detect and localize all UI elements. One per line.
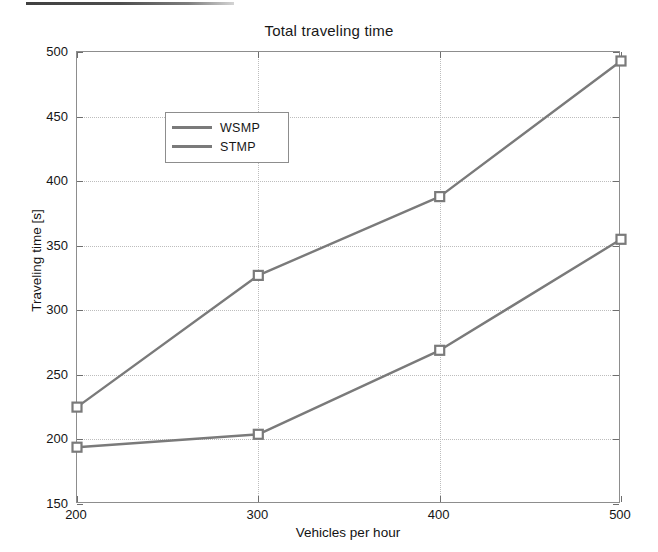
x-axis-tick: [621, 496, 622, 502]
legend-item[interactable]: WSMP: [172, 118, 282, 137]
y-tick-label: 300: [20, 302, 68, 317]
y-tick-label: 400: [20, 173, 68, 188]
chart-legend: WSMP STMP: [165, 112, 289, 163]
data-point-marker: [617, 235, 626, 244]
series-stmp: [73, 235, 626, 452]
legend-label-stmp: STMP: [220, 140, 256, 154]
x-tick-label: 200: [46, 507, 106, 522]
data-point-marker: [435, 346, 444, 355]
x-axis-label: Vehicles per hour: [76, 525, 620, 540]
chart-title: Total traveling time: [0, 22, 658, 39]
x-tick-labels: 200300400500: [76, 503, 620, 525]
x-tick-label: 300: [227, 507, 287, 522]
series-line: [77, 239, 621, 447]
data-point-marker: [73, 403, 82, 412]
data-point-marker: [254, 430, 263, 439]
x-tick-label: 400: [409, 507, 469, 522]
legend-label-wsmp: WSMP: [220, 121, 260, 135]
chart-figure: Total traveling time Traveling time [s] …: [0, 0, 658, 552]
data-point-marker: [254, 271, 263, 280]
data-point-marker: [435, 192, 444, 201]
legend-line-swatch-stmp: [172, 145, 212, 148]
series-wsmp: [73, 57, 626, 412]
series-layer: [77, 52, 621, 504]
y-tick-label: 500: [20, 44, 68, 59]
series-line: [77, 61, 621, 407]
legend-line-swatch-wsmp: [172, 126, 212, 129]
y-tick-label: 250: [20, 366, 68, 381]
x-tick-label: 500: [590, 507, 650, 522]
y-tick-label: 450: [20, 108, 68, 123]
plot-area: WSMP STMP: [76, 51, 620, 503]
y-tick-label: 350: [20, 237, 68, 252]
data-point-marker: [617, 57, 626, 66]
legend-item[interactable]: STMP: [172, 137, 282, 156]
data-point-marker: [73, 443, 82, 452]
y-tick-label: 200: [20, 431, 68, 446]
